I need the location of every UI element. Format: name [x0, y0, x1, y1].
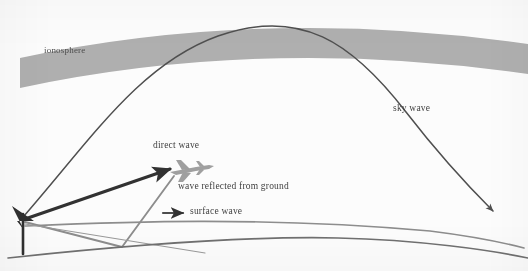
label-sky-wave: sky wave: [393, 103, 430, 113]
label-ionosphere: ionosphere: [44, 45, 86, 55]
label-surface-wave: surface wave: [190, 206, 242, 216]
radio-propagation-diagram: [0, 0, 528, 271]
label-direct-wave: direct wave: [153, 140, 199, 150]
label-reflected-wave: wave reflected from ground: [178, 181, 289, 191]
